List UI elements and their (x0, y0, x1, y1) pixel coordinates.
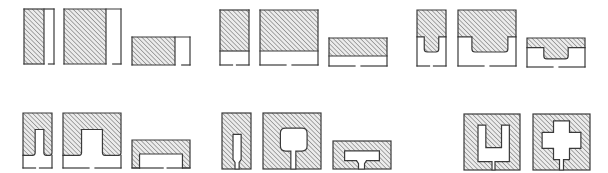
plan-shape-top-band-low-wide (329, 38, 387, 66)
architectural-plan-diagram (0, 0, 608, 173)
plan-shape-tongue-tall-narrow (417, 10, 446, 66)
plan-shape-cross-void-cross-void (533, 114, 590, 170)
plan-shape-top-band-tall-wide (260, 10, 318, 65)
plan-shape-u-void-u-void (464, 114, 520, 170)
plan-shape-keyhole-tall-wide (263, 113, 321, 169)
plan-shape-arch-tall-wide (63, 113, 121, 168)
diagram-canvas (0, 0, 608, 173)
bottom-row (23, 113, 590, 170)
group-keyhole-blocks (222, 113, 391, 169)
plan-shape-side-open-tall-narrow (24, 9, 54, 64)
plan-shape-keyhole-tall-narrow (222, 113, 251, 169)
plan-shape-tongue-low-wide (527, 38, 585, 67)
group-top-hatched-blocks (220, 10, 387, 66)
plan-shape-arch-tall-narrow (23, 113, 52, 168)
plan-shape-top-band-tall-narrow (220, 10, 249, 65)
plan-shape-tongue-tall-wide (458, 10, 516, 66)
group-enclosed-void-blocks (464, 114, 590, 170)
group-arch-blocks (23, 113, 190, 168)
top-row (24, 9, 585, 67)
shapes-layer (23, 9, 590, 170)
plan-shape-side-open-tall-wide (64, 9, 121, 64)
plan-shape-side-open-low-wide (132, 37, 190, 65)
group-full-hatched-blocks (24, 9, 190, 65)
plan-shape-arch-low-wide (132, 140, 190, 168)
group-tongue-blocks (417, 10, 585, 67)
plan-shape-keyhole-low-wide (333, 141, 391, 169)
